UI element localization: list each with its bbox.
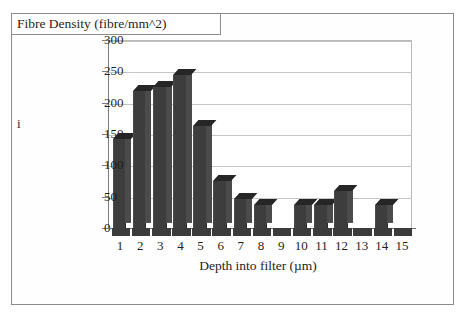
bar-side-face	[347, 185, 353, 223]
bar	[334, 185, 346, 229]
floor-segment	[132, 228, 150, 236]
x-axis-tick-label: 1	[117, 238, 124, 254]
floor-segment	[253, 228, 271, 236]
gridline	[109, 72, 411, 73]
bar	[314, 199, 326, 229]
margin-glyph: i	[17, 117, 21, 130]
floor-segment	[233, 228, 251, 236]
floor-segment	[112, 228, 130, 236]
x-axis-tick-label: 11	[315, 238, 328, 254]
floor-segment	[353, 228, 371, 236]
bar	[294, 199, 306, 229]
bar-top-face	[254, 199, 278, 205]
bar-front-face	[234, 199, 247, 229]
x-axis-tick-label: 7	[238, 238, 245, 254]
bar	[153, 81, 165, 229]
floor-segment	[293, 228, 311, 236]
bar-front-face	[334, 191, 347, 229]
bar-top-face	[334, 185, 358, 191]
floor-segment	[192, 228, 210, 236]
bar-front-face	[173, 75, 186, 229]
bar	[193, 120, 205, 229]
bar-front-face	[133, 91, 146, 229]
bar	[254, 199, 266, 229]
x-axis-tick-label: 12	[335, 238, 348, 254]
x-axis-tick-label: 8	[258, 238, 265, 254]
x-axis-tick-labels: 123456789101112131415	[108, 238, 410, 258]
x-axis-title: Depth into filter (µm)	[100, 258, 416, 274]
floor-segment	[374, 228, 392, 236]
bar-top-face	[193, 120, 217, 126]
bar-side-face	[125, 133, 131, 223]
x-axis-tick-label: 6	[217, 238, 224, 254]
bar-top-face	[173, 69, 197, 75]
floor-segment	[333, 228, 351, 236]
bar-front-face	[153, 87, 166, 229]
bar-front-face	[113, 139, 126, 229]
x-axis-tick-label: 3	[157, 238, 164, 254]
x-axis-tick-label: 14	[375, 238, 388, 254]
bar-side-face	[186, 69, 192, 223]
bar	[173, 69, 185, 229]
bar-front-face	[213, 181, 226, 229]
bar-side-face	[145, 85, 151, 223]
bar-front-face	[254, 205, 267, 229]
x-axis-tick-label: 15	[395, 238, 408, 254]
axis-floor-slab	[108, 228, 416, 236]
plot-area	[108, 40, 412, 229]
bar-top-face	[375, 199, 399, 205]
x-axis-tick-label: 5	[197, 238, 204, 254]
chart-screenshot: Fibre Density (fibre/mm^2) i 05010015020…	[0, 0, 468, 321]
bar	[133, 85, 145, 229]
bar	[234, 193, 246, 229]
bar	[213, 175, 225, 229]
x-axis-tick-label: 10	[295, 238, 308, 254]
x-axis-tick-label: 9	[278, 238, 285, 254]
x-axis-tick-label: 4	[177, 238, 184, 254]
bar	[375, 199, 387, 229]
bar-front-face	[375, 205, 388, 229]
bar-top-face	[213, 175, 237, 181]
bar-side-face	[166, 81, 172, 223]
floor-segment	[273, 228, 291, 236]
bar-side-face	[226, 175, 232, 223]
floor-segment	[212, 228, 230, 236]
plot-wrapper: 050100150200250300 123456789101112131415	[100, 36, 416, 236]
floor-segment	[313, 228, 331, 236]
floor-segment	[152, 228, 170, 236]
bar-front-face	[193, 126, 206, 229]
chart-title-label: Fibre Density (fibre/mm^2)	[17, 17, 167, 31]
bar-front-face	[314, 205, 327, 229]
x-axis-tick-label: 13	[355, 238, 368, 254]
floor-segment	[394, 228, 412, 236]
x-axis-tick-label: 2	[137, 238, 144, 254]
bar-side-face	[206, 120, 212, 223]
floor-segment	[172, 228, 190, 236]
gridline	[109, 41, 411, 42]
bar-front-face	[294, 205, 307, 229]
bar	[113, 133, 125, 229]
